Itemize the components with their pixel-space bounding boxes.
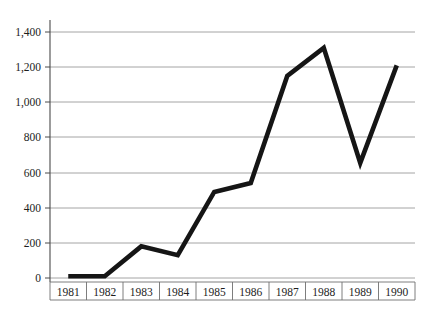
- x-tick-label-1983: 1983: [130, 286, 153, 298]
- y-tick-label-800: 800: [24, 131, 42, 143]
- chart-canvas: 1,400 1,200 1,000 800 600 400 200 0: [0, 0, 426, 320]
- x-tick-label-1989: 1989: [349, 286, 372, 298]
- x-tick-label-1986: 1986: [239, 286, 262, 298]
- x-tick-label-1981: 1981: [57, 286, 80, 298]
- x-tick-label-1988: 1988: [312, 286, 335, 298]
- y-tick-label-600: 600: [24, 167, 42, 179]
- y-tick-label-1200: 1,200: [15, 61, 41, 74]
- x-tick-label-1990: 1990: [385, 286, 408, 298]
- y-tick-label-400: 400: [24, 202, 42, 214]
- gridlines: [50, 32, 415, 278]
- y-tick-label-1400: 1,400: [15, 26, 41, 39]
- y-tick-label-0: 0: [35, 272, 41, 284]
- caption-fragment: [8, 308, 258, 317]
- x-tick-label-1984: 1984: [166, 286, 189, 298]
- y-axis: [45, 20, 50, 282]
- x-axis-label-table: 1981 1982 1983 1984 1985 1986 1987 1988 …: [50, 282, 415, 300]
- y-tick-label-200: 200: [24, 237, 42, 249]
- y-tick-label-1000: 1,000: [15, 96, 41, 109]
- x-tick-label-1987: 1987: [276, 286, 299, 298]
- data-series-line: [68, 48, 397, 276]
- x-tick-label-1985: 1985: [203, 286, 226, 298]
- y-axis-tick-labels: 1,400 1,200 1,000 800 600 400 200 0: [15, 26, 41, 284]
- x-tick-label-1982: 1982: [93, 286, 116, 298]
- line-chart-figure: 1,400 1,200 1,000 800 600 400 200 0: [0, 0, 426, 320]
